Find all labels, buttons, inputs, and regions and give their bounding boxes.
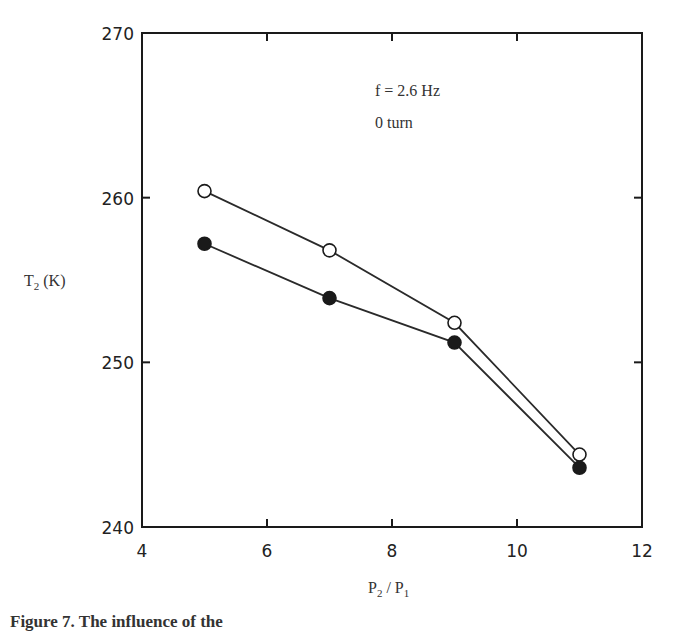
series-lines — [205, 191, 580, 468]
y-tick-label: 270 — [102, 24, 134, 44]
figure-caption: Figure 7. The influence of the — [10, 612, 223, 632]
x-axis-p1-subscript: 1 — [404, 587, 410, 599]
y-axis-label: T2 (K) — [24, 272, 66, 292]
filled-circle-marker — [573, 461, 586, 474]
plot-frame — [142, 33, 642, 527]
annotation-frequency: f = 2.6 Hz — [375, 82, 440, 99]
y-axis-unit: (K) — [39, 272, 65, 290]
y-axis-symbol: T — [24, 272, 34, 289]
x-axis-separator: / — [382, 579, 394, 596]
x-tick-label: 6 — [262, 541, 273, 561]
y-tick-label: 250 — [102, 353, 134, 373]
x-axis-p2: P — [368, 579, 377, 596]
filled-circle-marker — [323, 292, 336, 305]
axis-ticks — [142, 33, 642, 527]
x-axis-label: P2 / P1 — [368, 579, 409, 599]
x-tick-label: 10 — [506, 541, 528, 561]
open-circle-marker — [198, 185, 211, 198]
y-tick-label: 240 — [102, 518, 134, 538]
series-markers — [198, 185, 586, 475]
x-tick-label: 8 — [387, 541, 398, 561]
x-axis-p1: P — [395, 579, 404, 596]
y-tick-labels: 240250260270 — [102, 24, 134, 538]
open-circle-marker — [323, 244, 336, 257]
x-tick-label: 12 — [631, 541, 653, 561]
x-tick-labels: 4681012 — [137, 541, 653, 561]
open-circle-marker — [448, 316, 461, 329]
filled-circle-marker — [448, 336, 461, 349]
y-tick-label: 260 — [102, 189, 134, 209]
annotation-turn: 0 turn — [375, 114, 413, 131]
series-line — [205, 191, 580, 454]
filled-circle-marker — [198, 237, 211, 250]
series-line — [205, 244, 580, 468]
x-tick-label: 4 — [137, 541, 148, 561]
open-circle-marker — [573, 448, 586, 461]
